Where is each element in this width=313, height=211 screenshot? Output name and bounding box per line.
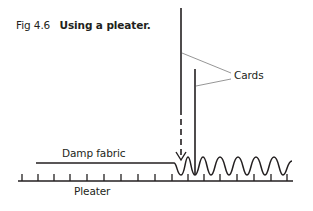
pleater-diagram (0, 0, 313, 211)
card-long (176, 8, 186, 160)
damp-fabric-line (36, 157, 292, 175)
pleater-base (18, 174, 293, 181)
leader-line-long (182, 53, 231, 73)
damp-fabric-label: Damp fabric (62, 147, 125, 159)
pleater-label: Pleater (74, 185, 110, 197)
cards-label: Cards (234, 69, 264, 81)
leader-line-short (196, 79, 231, 86)
